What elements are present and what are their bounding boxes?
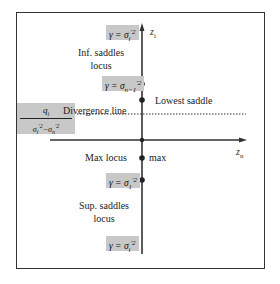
gamma-1-sup: '2 (132, 176, 137, 184)
fraction-den-sigma-n-sup: '2 (55, 123, 59, 129)
fraction-den-sigma-n-sub: n (52, 129, 55, 135)
gamma-i-bottom-sup: '2 (131, 239, 136, 247)
fraction-den-sigma-i-sub: i (37, 129, 39, 135)
horizontal-axis-label-sub: n (240, 152, 244, 160)
gamma-i-top-sup: '2 (131, 28, 136, 36)
gamma-n-minus-1-sub: n−1 (125, 86, 137, 94)
gamma-i-top-sub: i (129, 35, 131, 43)
sup-saddles-line2: locus (72, 212, 136, 225)
gamma-n-minus-1-lhs: γ = σ (105, 81, 125, 91)
gamma-n-minus-1-box: γ = σn−1'2 (102, 76, 144, 91)
vertical-axis-arrow-icon (140, 23, 145, 31)
gamma-i-top-box: γ = σi'2 (106, 25, 139, 40)
gamma-i-bottom-lhs: γ = σ (109, 241, 129, 251)
gamma-1-box: γ = σ1'2 (106, 173, 140, 188)
gamma-i-bottom-box: γ = σi'2 (106, 236, 139, 251)
sup-saddles-locus-label: Sup. saddles locus (72, 199, 136, 225)
origin-point (140, 138, 144, 142)
sup-saddles-line1: Sup. saddles (72, 199, 136, 212)
lowest-saddle-label: Lowest saddle (155, 94, 213, 107)
gamma-i-bottom-sub: i (129, 246, 131, 254)
gamma-1-lhs: γ = σ (109, 178, 129, 188)
max-label: max (149, 151, 166, 164)
inf-saddles-line1: Inf. saddles (66, 46, 136, 59)
fraction-den-minus-sigma-n: −σ (43, 125, 52, 134)
inf-saddles-line2: locus (66, 59, 136, 72)
fraction-denominator: σi'2−σn'2 (17, 119, 75, 139)
vertical-axis-label-sub: i (154, 32, 156, 40)
horizontal-axis-label: zn (236, 146, 243, 160)
max-locus-label: Max locus (85, 151, 127, 164)
gamma-i-top-lhs: γ = σ (109, 30, 129, 40)
axes-graphic (0, 0, 280, 284)
fraction-numerator-sub: i (47, 111, 49, 117)
max-point (139, 155, 145, 161)
horizontal-axis-arrow-icon (239, 138, 247, 143)
inf-saddles-locus-label: Inf. saddles locus (66, 46, 136, 72)
gamma-1-sub: 1 (129, 183, 133, 191)
divergence-line-label: Divergence line (63, 104, 126, 117)
vertical-axis-label: zi (150, 26, 156, 40)
gamma-n-minus-1-sup: '2 (136, 79, 141, 87)
lowest-saddle-point (139, 97, 145, 103)
